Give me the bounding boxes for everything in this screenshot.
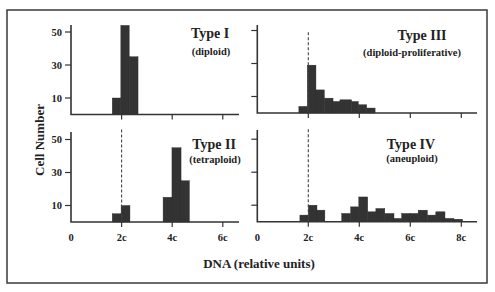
histogram-bar [402, 213, 410, 221]
histogram-bar [358, 105, 366, 113]
histogram-bar [418, 210, 427, 222]
panel-subtitle-type-iv: (aneuploid) [386, 153, 438, 165]
x-tick-label: 4c [354, 232, 364, 243]
histogram-bar [163, 197, 172, 222]
histogram-bar [112, 214, 121, 222]
histogram-bar [340, 100, 352, 113]
histogram-bar [181, 181, 189, 222]
histogram-bar [368, 212, 376, 222]
histogram-bar [351, 207, 359, 222]
histogram-bar [342, 213, 351, 221]
histogram-bar [308, 205, 317, 222]
x-tick-label: 0 [255, 232, 260, 243]
y-tick-label: 30 [52, 167, 63, 178]
histogram-bar [300, 215, 308, 222]
y-tick-label: 30 [52, 60, 63, 71]
histogram-bar [129, 57, 138, 115]
histogram-bar [316, 90, 324, 113]
x-tick-label: 6c [405, 232, 415, 243]
panel-subtitle-type-ii: (tetraploid) [189, 154, 241, 166]
histogram-bar [112, 98, 121, 115]
x-tick-label: 2c [117, 232, 127, 243]
chart-canvas: 103050 10305002c4c6c 02c4c6c8c Type I (d… [0, 0, 495, 292]
x-axis-label: DNA (relative units) [203, 256, 315, 271]
histogram-bar [333, 101, 340, 113]
histogram-bar [376, 209, 385, 222]
panel-title-type-iii: Type III [397, 28, 446, 43]
y-tick-label: 10 [52, 200, 63, 211]
histogram-bar [359, 197, 368, 222]
y-tick-label: 50 [52, 134, 63, 145]
histogram-bar [121, 206, 130, 223]
x-tick-label: 0 [68, 232, 73, 243]
histogram-bar [172, 148, 181, 222]
panel-title-type-ii: Type II [192, 137, 236, 152]
x-tick-label: 8c [456, 232, 466, 243]
panel-subtitle-type-i: (diploid) [192, 46, 231, 58]
panel-title-type-iv: Type IV [387, 137, 435, 152]
histogram-bar [317, 210, 325, 222]
x-tick-label: 4c [167, 232, 177, 243]
histogram-bar [121, 25, 129, 114]
y-axis-label: Cell Number [32, 104, 47, 176]
histogram-bar [436, 212, 445, 222]
dna-histogram-figure: 103050 10305002c4c6c 02c4c6c8c Type I (d… [0, 0, 495, 292]
histogram-bar [410, 213, 418, 221]
histogram-bar [385, 213, 394, 221]
x-tick-label: 6c [218, 232, 228, 243]
x-tick-label: 2c [303, 232, 313, 243]
histogram-bar [427, 215, 435, 222]
panel-subtitle-type-iii: (diploid-proliferative) [363, 47, 461, 59]
histogram-bar [324, 98, 333, 113]
y-tick-label: 50 [52, 27, 63, 38]
histogram-bar [299, 106, 307, 113]
panel-title-type-i: Type I [191, 26, 229, 41]
y-tick-label: 10 [52, 93, 63, 104]
histogram-bar [352, 101, 359, 113]
